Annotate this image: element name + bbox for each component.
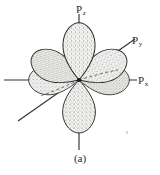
orbital-illustration [0,0,160,175]
axis-label-py-sub: y [139,40,143,48]
axis-label-pz: Pz [76,4,86,15]
nucleus-point [77,78,81,82]
p-orbital-figure: Pz Py Px (a) [0,0,160,175]
figure-caption: (a) [0,153,160,164]
axis-label-px-main: P [138,74,144,86]
axis-label-px-sub: x [145,80,149,88]
axis-label-pz-sub: z [83,9,86,17]
scan-artifact-speck [126,131,128,134]
axis-label-py: Py [132,35,142,46]
axis-label-px: Px [138,75,148,86]
axis-label-py-main: P [132,34,138,46]
axis-label-pz-main: P [76,3,82,15]
orbital-lobes-group [25,23,132,133]
